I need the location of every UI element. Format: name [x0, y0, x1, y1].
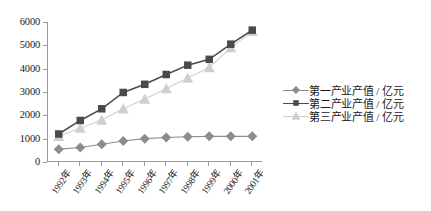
data-point: [226, 131, 236, 141]
series-layer: [48, 22, 263, 162]
x-axis-tick-label: 2001年: [240, 166, 267, 197]
series-2: [55, 26, 256, 137]
series-1: [54, 131, 258, 154]
x-axis-tick: [122, 162, 123, 166]
data-point: [98, 105, 106, 113]
data-point: [163, 71, 171, 79]
data-point: [140, 134, 150, 144]
y-axis-tick-label: 4000: [20, 63, 40, 74]
data-point: [75, 142, 85, 152]
data-point: [161, 83, 172, 93]
data-point: [204, 131, 214, 141]
x-axis-tick-label: 1994年: [90, 166, 117, 197]
data-point: [77, 117, 85, 125]
legend-item[interactable]: 第三产业产值 / 亿元: [283, 110, 403, 122]
x-axis: 1992年1993年1994年1995年1996年1997年1998年1999年…: [0, 162, 431, 211]
x-axis-tick: [165, 162, 166, 166]
data-point: [75, 123, 86, 133]
legend-label: 第三产业产值 / 亿元: [309, 108, 403, 124]
data-point: [247, 131, 257, 141]
x-axis-tick: [101, 162, 102, 166]
data-point: [97, 139, 107, 149]
data-point: [184, 61, 192, 69]
x-axis-tick-label: 1997年: [154, 166, 181, 197]
data-point: [141, 81, 149, 89]
series-line: [59, 30, 253, 134]
legend-marker-glyph: [292, 86, 300, 94]
x-axis-tick: [144, 162, 145, 166]
data-point: [54, 144, 64, 154]
legend-marker-glyph: [292, 99, 300, 107]
y-axis-tick-label: 5000: [20, 40, 40, 51]
x-axis-tick: [187, 162, 188, 166]
x-axis-tick: [230, 162, 231, 166]
legend-marker-diamond-icon: [283, 84, 309, 96]
data-point: [120, 89, 128, 97]
y-axis-tick-label: 2000: [20, 110, 40, 121]
data-point: [161, 132, 171, 142]
data-point: [206, 56, 214, 64]
chart-legend: 第一产业产值 / 亿元第二产业产值 / 亿元第三产业产值 / 亿元: [283, 84, 403, 122]
legend-marker-glyph: [292, 112, 300, 120]
data-point: [118, 136, 128, 146]
data-point: [182, 73, 193, 83]
series-line: [59, 136, 253, 149]
line-chart: 6000500040003000200010000 1992年1993年1994…: [0, 0, 431, 211]
x-axis-tick-label: 1998年: [176, 166, 203, 197]
data-point: [249, 26, 257, 33]
data-point: [183, 132, 193, 142]
data-point: [227, 40, 235, 48]
x-axis-tick: [58, 162, 59, 166]
x-axis-tick-label: 1992年: [47, 166, 74, 197]
y-axis-tick-label: 3000: [20, 87, 40, 98]
x-axis-tick: [251, 162, 252, 166]
y-axis-tick-label: 6000: [20, 17, 40, 28]
legend-marker-triangle-icon: [283, 110, 309, 122]
legend-marker-square-icon: [283, 97, 309, 109]
data-point: [118, 103, 129, 113]
x-axis-tick: [79, 162, 80, 166]
x-axis-tick-label: 1999年: [197, 166, 224, 197]
x-axis-tick-label: 1995年: [111, 166, 138, 197]
x-axis-tick-label: 2000年: [219, 166, 246, 197]
x-axis-tick-label: 1993年: [68, 166, 95, 197]
x-axis-tick: [208, 162, 209, 166]
data-point: [55, 130, 63, 138]
y-axis-tick-label: 1000: [20, 133, 40, 144]
data-point: [96, 115, 107, 125]
plot-area: [47, 22, 262, 162]
x-axis-tick-label: 1996年: [133, 166, 160, 197]
series-line: [59, 31, 253, 136]
y-axis: 6000500040003000200010000: [0, 0, 44, 170]
data-point: [139, 94, 150, 104]
